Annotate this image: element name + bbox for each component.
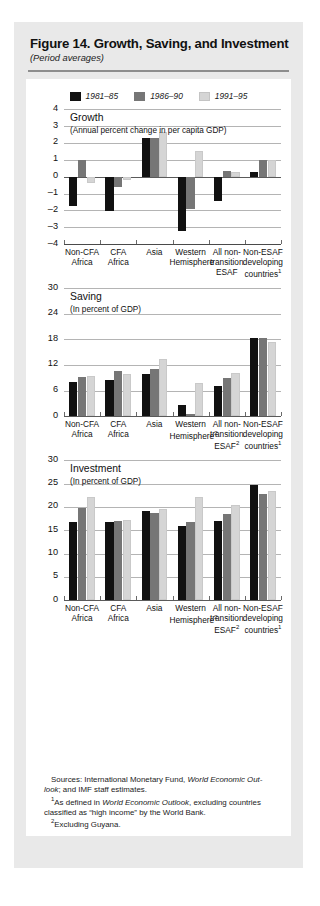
- bar: [214, 521, 222, 600]
- legend-swatch-icon: [134, 92, 145, 101]
- x-axis-tick: [100, 240, 101, 244]
- category-label-line: Africa: [97, 258, 139, 268]
- chart-panel-growth: 43210–1–2–3–4Growth(Annual percent chang…: [26, 109, 291, 288]
- y-axis-tick-label: 3: [26, 120, 58, 130]
- y-axis-tick-label: 12: [26, 358, 58, 368]
- gridline: [64, 507, 281, 508]
- bar: [186, 522, 194, 600]
- x-axis-category-label: Non-ESAFdevelopingcountries1: [242, 248, 284, 280]
- y-axis-tick-label: 10: [26, 547, 58, 557]
- gridline: [64, 160, 281, 161]
- y-axis-tick-label: 0: [26, 410, 58, 420]
- x-axis-tick: [209, 240, 210, 244]
- category-label-line: developing: [242, 430, 284, 440]
- category-label-line: developing: [242, 258, 284, 268]
- category-label-line: Africa: [97, 614, 139, 624]
- panel-title: Investment: [70, 463, 121, 474]
- panel-subtitle: (In percent of GDP): [70, 477, 141, 486]
- gridline: [64, 365, 281, 366]
- x-axis-tick: [245, 596, 246, 600]
- x-axis-tick: [100, 412, 101, 416]
- bar: [123, 520, 131, 600]
- bar: [87, 177, 95, 184]
- bar: [150, 513, 158, 600]
- x-axis-tick: [281, 596, 282, 600]
- gridline: [64, 339, 281, 340]
- x-axis-line: [64, 600, 281, 601]
- bar: [105, 380, 113, 416]
- chart-legend: 1981–851986–901991–95: [26, 79, 291, 103]
- footnote-2: 2Excluding Guyana.: [44, 818, 281, 830]
- bar: [150, 369, 158, 416]
- title-block: Figure 14. Growth, Saving, and Investmen…: [26, 32, 291, 63]
- legend-swatch-icon: [70, 92, 81, 101]
- bar: [268, 491, 276, 600]
- bar: [195, 151, 203, 176]
- bar: [69, 522, 77, 600]
- bar: [250, 485, 258, 600]
- sources-line2-rest: ; and IMF staff estimates.: [58, 785, 146, 794]
- legend-item-1: 1981–85: [70, 91, 119, 101]
- bar: [231, 172, 239, 177]
- gridline: [64, 143, 281, 144]
- category-label-line: countries1: [242, 440, 284, 452]
- bar: [105, 177, 113, 212]
- x-axis-tick: [64, 240, 65, 244]
- title-divider: [28, 70, 289, 72]
- bar: [78, 377, 86, 416]
- category-label-line: developing: [242, 614, 284, 624]
- footnote-sources-line2: look; and IMF staff estimates.: [44, 785, 281, 795]
- gridline: [64, 391, 281, 392]
- panel-title: Growth: [70, 112, 104, 123]
- y-axis-tick-label: 25: [26, 477, 58, 487]
- figure-subtitle: (Period averages): [30, 53, 289, 63]
- category-label-line: Africa: [97, 430, 139, 440]
- footnote-1-italic: World Economic Outlook: [102, 797, 189, 806]
- x-axis-tick: [281, 412, 282, 416]
- x-axis-tick: [281, 240, 282, 244]
- panel-subtitle: (Annual percent change in per capita GDP…: [70, 126, 227, 135]
- figure-title: Figure 14. Growth, Saving, and Investmen…: [30, 36, 289, 51]
- bar: [78, 160, 86, 177]
- y-axis-tick-label: –2: [26, 204, 58, 214]
- category-label-superscript: 2: [236, 440, 239, 446]
- x-axis-tick: [173, 240, 174, 244]
- x-axis-tick: [136, 596, 137, 600]
- bar: [142, 138, 150, 177]
- bar: [87, 497, 95, 600]
- category-label-line: countries1: [242, 624, 284, 636]
- footnotes: Sources: International Monetary Fund, Wo…: [44, 775, 281, 830]
- x-axis-line: [64, 244, 281, 245]
- bar: [214, 177, 222, 201]
- bar: [178, 405, 186, 416]
- panel-subtitle: (In percent of GDP): [70, 305, 141, 314]
- gridline: [64, 109, 281, 110]
- gridline: [64, 554, 281, 555]
- bar: [87, 376, 95, 416]
- bar: [114, 177, 122, 187]
- sources-prefix: Sources: International Monetary Fund,: [51, 775, 187, 784]
- x-axis-line: [64, 416, 281, 417]
- legend-label: 1986–90: [150, 91, 183, 101]
- bar: [142, 374, 150, 416]
- legend-label: 1981–85: [86, 91, 119, 101]
- x-axis-tick: [173, 596, 174, 600]
- bar: [159, 509, 167, 600]
- category-label-superscript: 1: [278, 268, 281, 274]
- bar: [250, 338, 258, 417]
- chart-panel-investment: 302520151050Investment(In percent of GDP…: [26, 460, 291, 640]
- footnote-1-pre: As defined in: [54, 797, 102, 806]
- y-axis-tick-label: 24: [26, 307, 58, 317]
- gridline: [64, 577, 281, 578]
- x-axis-tick: [100, 596, 101, 600]
- y-axis-tick-label: –4: [26, 238, 58, 248]
- category-label-superscript: 1: [278, 440, 281, 446]
- bar: [223, 171, 231, 177]
- bar: [114, 521, 122, 600]
- x-axis-tick: [64, 412, 65, 416]
- x-axis-tick: [136, 240, 137, 244]
- legend-label: 1991–95: [215, 91, 248, 101]
- y-axis-tick-label: 2: [26, 136, 58, 146]
- bar: [195, 497, 203, 600]
- x-axis-tick: [209, 412, 210, 416]
